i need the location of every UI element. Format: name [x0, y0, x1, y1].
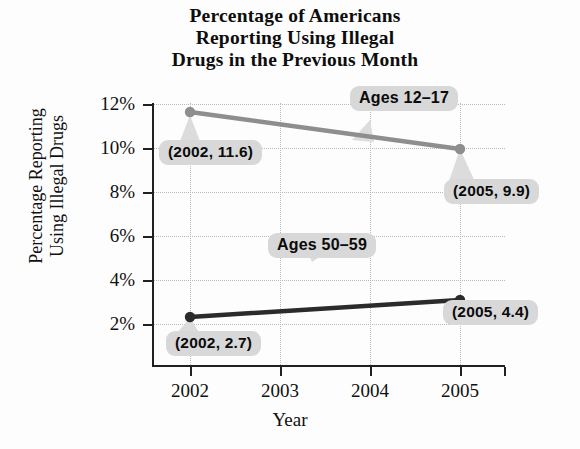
ytick-mark-2	[143, 324, 153, 326]
series-label-ages-50-59: Ages 50–59	[268, 233, 376, 258]
xtick-label-2003: 2003	[240, 380, 320, 402]
ytick-label-8: 8%	[75, 181, 135, 203]
xtick-label-2002: 2002	[150, 380, 230, 402]
ytick-mark-8	[143, 192, 153, 194]
ytick-label-2: 2%	[75, 313, 135, 335]
chart-title-line-3: Drugs in the Previous Month	[130, 49, 460, 71]
xtick-mark-2002	[190, 367, 192, 376]
ytick-label-4: 4%	[75, 269, 135, 291]
xtick-mark-2005	[460, 367, 462, 376]
data-callout-2002-2-7: (2002, 2.7)	[166, 331, 261, 356]
xtick-mark-end	[504, 367, 506, 376]
data-callout-2002-11-6: (2002, 11.6)	[159, 140, 262, 165]
y-axis-title-line-1: Percentage Reporting	[26, 76, 47, 296]
series-label-ages-12-17: Ages 12–17	[350, 86, 458, 111]
xtick-label-2004: 2004	[330, 380, 410, 402]
chart-title: Percentage of Americans Reporting Using …	[130, 5, 460, 71]
data-callout-2005-9-9: (2005, 9.9)	[444, 179, 539, 204]
ytick-mark-10	[143, 148, 153, 150]
chart-title-line-2: Reporting Using Illegal	[130, 27, 460, 49]
ytick-mark-4	[143, 280, 153, 282]
data-callout-2005-4-4: (2005, 4.4)	[443, 300, 538, 325]
y-axis-title-line-2: Using Illegal Drugs	[47, 76, 68, 296]
xtick-label-2005: 2005	[420, 380, 500, 402]
xtick-mark-2003	[280, 367, 282, 376]
y-axis-title: Percentage Reporting Using Illegal Drugs	[26, 76, 68, 296]
xtick-mark-2004	[370, 367, 372, 376]
ytick-label-10: 10%	[75, 137, 135, 159]
chart-title-line-1: Percentage of Americans	[130, 5, 460, 27]
ytick-mark-12	[143, 104, 153, 106]
ytick-label-12: 12%	[75, 93, 135, 115]
ytick-mark-6	[143, 236, 153, 238]
ytick-label-6: 6%	[75, 225, 135, 247]
chart-figure: Percentage of Americans Reporting Using …	[0, 0, 580, 449]
x-axis-title: Year	[0, 409, 580, 431]
